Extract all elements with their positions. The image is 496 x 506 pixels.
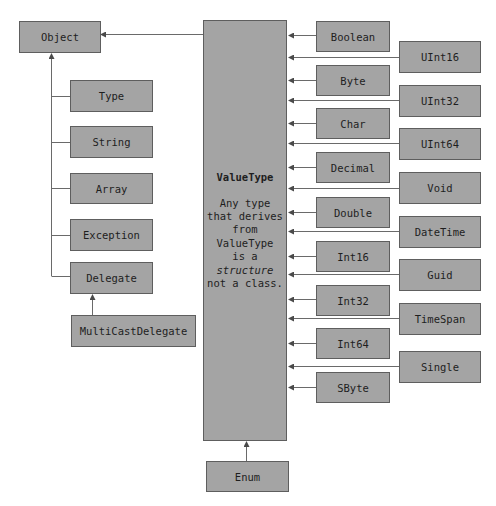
node-char: Char bbox=[316, 108, 390, 139]
description-line: is a bbox=[207, 250, 283, 263]
node-sbyte: SByte bbox=[316, 372, 390, 403]
valuetype-title: ValueType bbox=[217, 171, 274, 183]
node-byte: Byte bbox=[316, 65, 390, 96]
node-boolean: Boolean bbox=[316, 21, 390, 52]
description-line: Any type bbox=[207, 197, 283, 210]
node-uint32: UInt32 bbox=[399, 85, 481, 117]
node-label: Double bbox=[334, 207, 372, 219]
node-label: SByte bbox=[337, 382, 369, 394]
node-type: Type bbox=[70, 80, 153, 112]
node-label: Delegate bbox=[86, 272, 137, 284]
node-enum: Enum bbox=[206, 461, 289, 492]
node-label: Type bbox=[99, 90, 124, 102]
node-guid: Guid bbox=[399, 259, 481, 291]
node-string: String bbox=[70, 126, 153, 158]
node-label: TimeSpan bbox=[415, 313, 466, 325]
node-label: MultiCastDelegate bbox=[80, 325, 187, 337]
node-label: Enum bbox=[235, 471, 260, 483]
node-timespan: TimeSpan bbox=[399, 303, 481, 335]
node-int16: Int16 bbox=[316, 241, 390, 272]
node-label: Int16 bbox=[337, 251, 369, 263]
node-multicastdelegate: MultiCastDelegate bbox=[71, 315, 196, 347]
node-label: DateTime bbox=[415, 226, 466, 238]
node-exception: Exception bbox=[70, 219, 153, 251]
type-hierarchy-diagram: Object Type String Array Exception Deleg… bbox=[0, 0, 496, 506]
node-label: UInt16 bbox=[421, 51, 459, 63]
node-void: Void bbox=[399, 172, 481, 204]
node-object: Object bbox=[19, 21, 101, 53]
node-valuetype: ValueType Any type that derives from Val… bbox=[203, 20, 287, 441]
node-label: Boolean bbox=[331, 31, 375, 43]
node-single: Single bbox=[399, 351, 481, 383]
node-datetime: DateTime bbox=[399, 216, 481, 248]
valuetype-description: Any type that derives from ValueType is … bbox=[207, 197, 283, 291]
node-label: Array bbox=[96, 183, 128, 195]
node-label: Int32 bbox=[337, 295, 369, 307]
node-int64: Int64 bbox=[316, 328, 390, 359]
description-line: not a class. bbox=[207, 277, 283, 290]
node-label: Exception bbox=[83, 229, 140, 241]
node-label: String bbox=[93, 136, 131, 148]
description-line: from bbox=[207, 223, 283, 236]
node-uint64: UInt64 bbox=[399, 128, 481, 160]
node-delegate: Delegate bbox=[70, 262, 153, 294]
node-double: Double bbox=[316, 197, 390, 228]
node-uint16: UInt16 bbox=[399, 41, 481, 73]
node-label: UInt32 bbox=[421, 95, 459, 107]
node-label: Single bbox=[421, 361, 459, 373]
node-decimal: Decimal bbox=[316, 152, 390, 183]
node-label: UInt64 bbox=[421, 138, 459, 150]
node-label: Char bbox=[340, 118, 365, 130]
node-label: Byte bbox=[340, 75, 365, 87]
description-line: ValueType bbox=[207, 237, 283, 250]
description-line: that derives bbox=[207, 210, 283, 223]
node-int32: Int32 bbox=[316, 285, 390, 316]
node-label: Int64 bbox=[337, 338, 369, 350]
node-label: Object bbox=[41, 31, 79, 43]
description-line-italic: structure bbox=[207, 264, 283, 277]
node-label: Void bbox=[427, 182, 452, 194]
node-label: Guid bbox=[427, 269, 452, 281]
node-array: Array bbox=[70, 173, 153, 204]
node-label: Decimal bbox=[331, 162, 375, 174]
